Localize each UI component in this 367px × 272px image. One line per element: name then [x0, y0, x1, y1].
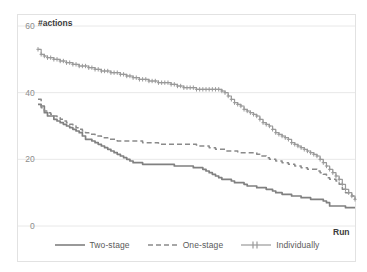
legend-label-two-stage: Two-stage: [90, 240, 130, 250]
y-tick-label: 60: [17, 21, 35, 31]
legend-label-one-stage: One-stage: [183, 240, 224, 250]
series-two-stage: [38, 104, 355, 207]
y-axis-title: #actions: [38, 18, 73, 28]
chart-legend: Two-stage One-stage Individually: [17, 240, 356, 250]
y-tick-label: 20: [17, 154, 35, 164]
y-tick-label: 0: [17, 221, 35, 231]
legend-swatch-marker-line: [240, 240, 272, 250]
legend-swatch-solid-line: [54, 240, 86, 250]
chart-container: 60 40 20 0 #actions Run Two-stage One-st…: [0, 0, 367, 272]
legend-item-individually[interactable]: Individually: [240, 240, 319, 250]
series-individually: [36, 47, 356, 201]
chart-plot-area: [0, 0, 367, 272]
legend-item-one-stage[interactable]: One-stage: [147, 240, 224, 250]
legend-swatch-dashed-line: [147, 240, 179, 250]
y-tick-label: 40: [17, 88, 35, 98]
x-axis-title: Run: [333, 227, 350, 237]
legend-label-individually: Individually: [276, 240, 319, 250]
data-series-layer: [36, 47, 356, 208]
legend-item-two-stage[interactable]: Two-stage: [54, 240, 130, 250]
